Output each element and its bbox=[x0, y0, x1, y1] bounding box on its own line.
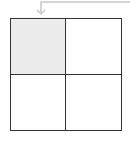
arrow-down-icon bbox=[0, 0, 130, 20]
grid-cell-top-right[interactable] bbox=[66, 19, 121, 75]
grid-cell-bottom-left[interactable] bbox=[11, 75, 66, 131]
grid-2x2 bbox=[10, 18, 122, 131]
grid-cell-bottom-right[interactable] bbox=[66, 75, 121, 131]
grid-cell-top-left[interactable] bbox=[11, 19, 66, 75]
